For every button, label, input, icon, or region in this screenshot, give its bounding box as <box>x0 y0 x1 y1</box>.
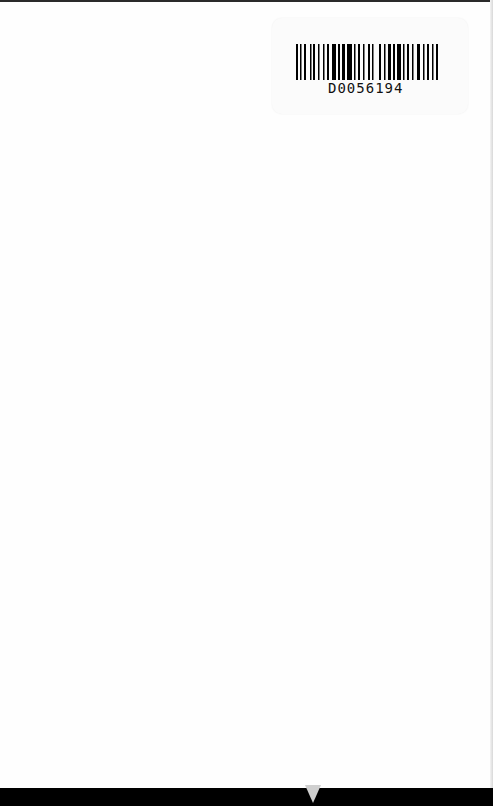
page-top-edge <box>0 0 493 2</box>
document-page: D0056194 <box>0 0 493 788</box>
scan-bottom-border <box>0 788 493 806</box>
page-tear <box>305 785 321 803</box>
barcode-label: D0056194 <box>328 80 403 96</box>
barcode-icon <box>296 44 439 80</box>
